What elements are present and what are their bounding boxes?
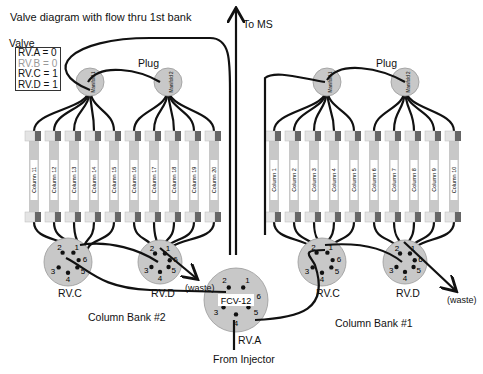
svg-text:Column 10: Column 10 (451, 167, 457, 194)
svg-text:3: 3 (51, 267, 56, 276)
valve-rva-fcv12: 123456FCV-12 (204, 268, 268, 332)
svg-text:4: 4 (320, 275, 325, 284)
column-7: Column 7 (385, 131, 401, 222)
svg-text:Column 14: Column 14 (91, 167, 97, 194)
svg-text:3: 3 (214, 308, 219, 317)
bank1-label: Column Bank #1 (335, 317, 413, 329)
column-2: Column 2 (285, 131, 301, 222)
svg-text:5: 5 (254, 308, 259, 317)
column-16: Column 16 (125, 131, 141, 222)
svg-text:Column 17: Column 17 (151, 167, 157, 194)
svg-text:5: 5 (335, 267, 340, 276)
column-3: Column 3 (305, 131, 321, 222)
rvd-label-right: RV.D (396, 287, 420, 299)
waste-label-right: (waste) (447, 295, 477, 305)
legend-item-rvd: RV.D = 1 (18, 80, 58, 91)
svg-text:1: 1 (74, 243, 79, 252)
column-10: Column 10 (445, 131, 461, 222)
svg-text:3: 3 (305, 267, 310, 276)
column-4: Column 4 (325, 131, 341, 222)
column-9: Column 9 (425, 131, 441, 222)
rva-label: RV.A (238, 334, 261, 346)
legend-item-rvc: RV.C = 1 (18, 69, 58, 80)
column-6: Column 6 (365, 131, 381, 222)
column-13: Column 13 (65, 131, 81, 222)
svg-text:Column 2: Column 2 (291, 168, 297, 192)
svg-text:FCV-12: FCV-12 (221, 296, 252, 306)
diagram-title: Valve diagram with flow thru 1st bank (10, 11, 191, 23)
plug-label-left: Plug (138, 57, 159, 69)
svg-text:5: 5 (416, 266, 421, 275)
svg-text:Column 20: Column 20 (211, 167, 217, 194)
svg-text:Column 5: Column 5 (351, 168, 357, 192)
svg-text:Manifold 2: Manifold 2 (406, 71, 411, 92)
column-20: Column 20 (205, 131, 221, 222)
svg-text:Manifold 2: Manifold 2 (169, 71, 174, 92)
svg-text:Column 11: Column 11 (31, 167, 37, 193)
svg-text:Column 3: Column 3 (311, 168, 317, 192)
svg-text:Column 16: Column 16 (131, 167, 137, 194)
svg-text:4: 4 (403, 274, 408, 283)
column-1: Column 1 (265, 131, 281, 222)
svg-text:Column 18: Column 18 (171, 167, 177, 194)
column-12: Column 12 (45, 131, 61, 222)
column-14: Column 14 (85, 131, 101, 222)
column-19: Column 19 (185, 131, 201, 222)
svg-text:Column 4: Column 4 (331, 168, 337, 192)
svg-text:1: 1 (245, 276, 250, 285)
bank2-label: Column Bank #2 (88, 311, 166, 323)
rvc-label-right: RV.C (316, 287, 340, 299)
column-11: Column 11 (25, 131, 41, 222)
svg-text:2: 2 (57, 243, 62, 252)
from-injector-label: From Injector (213, 353, 275, 365)
svg-text:Column 15: Column 15 (111, 167, 117, 194)
svg-text:Column 19: Column 19 (191, 167, 197, 194)
svg-text:4: 4 (158, 274, 163, 283)
svg-text:4: 4 (66, 275, 71, 284)
column-15: Column 15 (105, 131, 121, 222)
rvc-label-left: RV.C (58, 287, 82, 299)
column-17: Column 17 (145, 131, 161, 222)
svg-text:Column 9: Column 9 (431, 168, 437, 192)
column-18: Column 18 (165, 131, 181, 222)
waste-label-left: (waste) (185, 283, 215, 293)
column-8: Column 8 (405, 131, 421, 222)
svg-text:3: 3 (144, 266, 149, 275)
svg-text:6: 6 (256, 292, 261, 301)
svg-text:3: 3 (389, 266, 394, 275)
svg-text:Column 13: Column 13 (71, 167, 77, 194)
valve-rvd-bank1: 123456 (383, 240, 427, 284)
rvd-label-left: RV.D (151, 287, 175, 299)
svg-text:Column 1: Column 1 (271, 168, 277, 192)
svg-text:6: 6 (337, 255, 342, 264)
plug-label-right: Plug (376, 57, 397, 69)
svg-text:Column 7: Column 7 (391, 168, 397, 192)
svg-text:Column 6: Column 6 (371, 168, 377, 192)
svg-text:Column 8: Column 8 (411, 168, 417, 192)
valve-legend: RV.A = 0 RV.B = 0 RV.C = 1 RV.D = 1 (15, 47, 61, 91)
to-ms-label: To MS (243, 18, 273, 30)
column-5: Column 5 (345, 131, 361, 222)
svg-text:5: 5 (171, 266, 176, 275)
legend-item-rva: RV.A = 0 (18, 48, 58, 59)
svg-text:6: 6 (83, 255, 88, 264)
svg-text:Column 12: Column 12 (51, 167, 57, 194)
svg-text:2: 2 (222, 276, 227, 285)
